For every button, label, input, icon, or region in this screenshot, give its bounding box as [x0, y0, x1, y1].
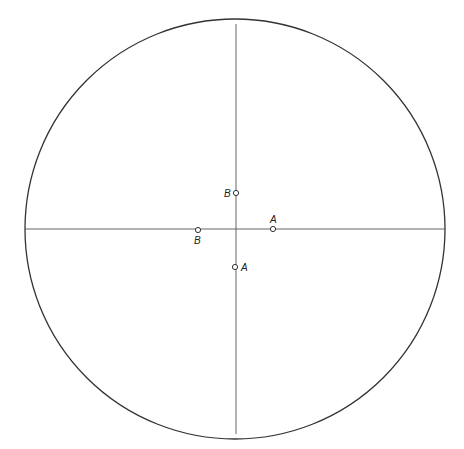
diagram-canvas: B A B A: [0, 0, 464, 449]
point-b-horizontal: B: [194, 227, 201, 246]
point-label: A: [269, 214, 277, 225]
point-marker: [270, 226, 275, 231]
point-label: A: [240, 262, 248, 273]
point-a-vertical: A: [232, 262, 248, 273]
point-label: B: [194, 235, 201, 246]
point-marker: [195, 227, 200, 232]
point-marker: [233, 190, 238, 195]
point-a-horizontal: A: [269, 214, 277, 232]
point-marker: [232, 264, 237, 269]
point-label: B: [224, 188, 231, 199]
